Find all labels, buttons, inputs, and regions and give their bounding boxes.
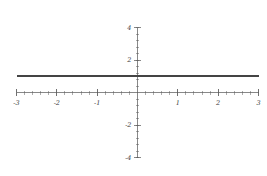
x-tick-label: 1 — [176, 99, 180, 107]
y-tick-label: -2 — [125, 121, 131, 129]
plot-figure: -3-2-1123-4-224 — [0, 0, 267, 176]
plot-canvas: -3-2-1123-4-224 — [0, 0, 267, 176]
y-tick-label: 4 — [126, 24, 131, 32]
y-tick-label: -4 — [125, 154, 131, 162]
x-tick-label: 2 — [215, 99, 220, 107]
axes-group — [17, 28, 259, 158]
x-tick-label: -3 — [13, 99, 19, 107]
y-tick-label: 2 — [126, 56, 131, 64]
x-tick-label: -2 — [54, 99, 60, 107]
x-tick-label: 3 — [256, 99, 260, 107]
tick-labels-group: -3-2-1123-4-224 — [13, 24, 260, 162]
x-tick-label: -1 — [94, 99, 100, 107]
